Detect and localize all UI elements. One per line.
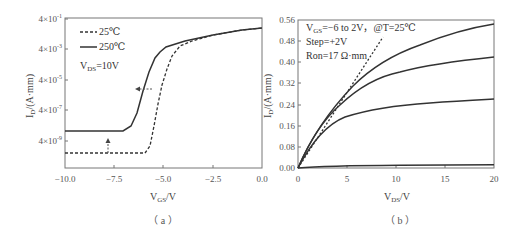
svg-text:0.00: 0.00 bbox=[279, 163, 295, 173]
panel-b: 0.56 0.48 0.40 0.32 0.24 0.16 0.08 0.00 … bbox=[262, 15, 499, 226]
x-axis-label-a: VGS/V bbox=[150, 191, 177, 204]
svg-text:0.40: 0.40 bbox=[279, 57, 295, 67]
svg-text:4×10-7: 4×10-7 bbox=[38, 104, 62, 115]
svg-text:4×10-5: 4×10-5 bbox=[38, 74, 62, 85]
svg-text:−2.5: −2.5 bbox=[205, 174, 222, 184]
svg-text:4×10-1: 4×10-1 bbox=[38, 13, 62, 24]
annotations-b: VGS=−6 to 2V，@T=25℃ Step=+2V Ron=17 Ω·mm bbox=[306, 22, 416, 61]
legend-label-250C: 250℃ bbox=[99, 41, 125, 52]
step-annotation: Step=+2V bbox=[306, 36, 348, 47]
svg-text:5: 5 bbox=[345, 174, 350, 184]
y-axis-label-a: ID/(A·mm) bbox=[24, 74, 37, 118]
caption-a: （ a ） bbox=[148, 215, 177, 226]
svg-text:10: 10 bbox=[392, 174, 402, 184]
svg-text:−7.5: −7.5 bbox=[106, 174, 123, 184]
vgs-range-annotation: VGS=−6 to 2V，@T=25℃ bbox=[306, 22, 416, 35]
svg-text:20: 20 bbox=[490, 174, 500, 184]
curve-vgs-0v bbox=[298, 57, 494, 168]
svg-text:0.32: 0.32 bbox=[279, 78, 295, 88]
y-tick-labels-a: 4×10-1 4×10-3 4×10-5 4×10-7 4×10-9 bbox=[38, 13, 62, 146]
svg-text:−10.0: −10.0 bbox=[55, 174, 76, 184]
svg-text:15: 15 bbox=[441, 174, 451, 184]
panel-a: 4×10-1 4×10-3 4×10-5 4×10-7 4×10-9 −10.0… bbox=[24, 13, 268, 226]
plot-frame-a bbox=[65, 18, 262, 168]
svg-text:0.0: 0.0 bbox=[256, 174, 268, 184]
svg-text:0.08: 0.08 bbox=[279, 142, 295, 152]
svg-text:0.48: 0.48 bbox=[279, 36, 295, 46]
svg-text:0.16: 0.16 bbox=[279, 121, 295, 131]
ron-annotation: Ron=17 Ω·mm bbox=[306, 50, 367, 61]
x-tick-labels-b: 0 5 10 15 20 bbox=[296, 174, 499, 184]
arrow-up-icon bbox=[106, 138, 111, 143]
x-axis-label-b: VDS/V bbox=[384, 191, 411, 204]
svg-text:0: 0 bbox=[296, 174, 301, 184]
figure: 4×10-1 4×10-3 4×10-5 4×10-7 4×10-9 −10.0… bbox=[0, 0, 522, 242]
y-tick-labels-b: 0.56 0.48 0.40 0.32 0.24 0.16 0.08 0.00 bbox=[279, 15, 295, 173]
curve-vgs-neg2v bbox=[298, 99, 494, 168]
svg-text:0.56: 0.56 bbox=[279, 15, 295, 25]
arrow-left-icon bbox=[135, 87, 140, 92]
vds-annotation: VDS=10V bbox=[80, 60, 120, 73]
svg-text:0.24: 0.24 bbox=[279, 100, 295, 110]
legend-a: 25℃ 250℃ VDS=10V bbox=[80, 26, 125, 73]
svg-text:−5.0: −5.0 bbox=[155, 174, 172, 184]
legend-label-25C: 25℃ bbox=[99, 26, 120, 37]
caption-b: （ b ） bbox=[385, 215, 415, 226]
x-tick-labels-a: −10.0 −7.5 −5.0 −2.5 0.0 bbox=[55, 174, 269, 184]
svg-text:4×10-9: 4×10-9 bbox=[38, 135, 62, 146]
y-axis-label-b: ID/(A·mm) bbox=[262, 74, 275, 118]
svg-text:4×10-3: 4×10-3 bbox=[38, 43, 62, 54]
